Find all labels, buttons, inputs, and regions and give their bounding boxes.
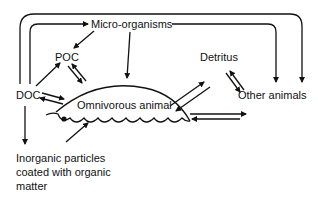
node-doc: DOC: [16, 89, 40, 101]
omnivorous-animal-underside: [46, 113, 190, 122]
node-detritus: Detritus: [200, 51, 238, 63]
inorganic-line-2: coated with organic: [16, 165, 111, 179]
arrow-micro-to-animal: [127, 32, 130, 78]
arrow-doc-to-poc: [36, 63, 60, 86]
node-inorganic-particles: Inorganic particles coated with organic …: [16, 151, 111, 193]
arrow-doc-to-animal: [42, 93, 64, 99]
arrow-animal-to-doc: [40, 98, 63, 104]
node-omnivorous-animal: Omnivorous animal: [77, 99, 172, 111]
inorganic-line-3: matter: [16, 179, 111, 193]
node-other-animals: Other animals: [238, 89, 306, 101]
arrow-micro-to-poc: [74, 31, 94, 48]
node-micro-organisms: Micro-organisms: [91, 18, 172, 30]
node-poc: POC: [55, 51, 79, 63]
inorganic-line-1: Inorganic particles: [16, 151, 111, 165]
animal-eye-icon: [61, 116, 66, 121]
arrow-inorganic-to-animal: [66, 123, 88, 142]
